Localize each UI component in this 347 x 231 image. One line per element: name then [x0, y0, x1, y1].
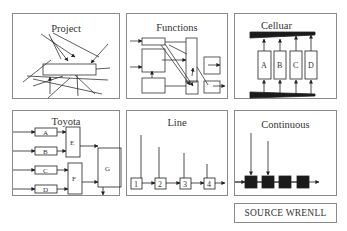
toyota-b-label: B [43, 148, 48, 156]
toyota-a-label: A [43, 129, 48, 137]
panel-project: Project [12, 13, 120, 99]
panel-functions: Functions [126, 13, 228, 99]
line-diagram: 1 2 3 4 [127, 111, 229, 197]
toyota-g-label: G [105, 165, 110, 173]
toyota-diagram: A B C D E F G [13, 111, 121, 197]
panel-line: Line 1 2 3 4 [126, 110, 228, 196]
toyota-e-label: E [70, 139, 74, 147]
continuous-diagram [235, 111, 338, 197]
toyota-c-label: C [43, 167, 48, 175]
panel-continuous: Continuous [234, 110, 337, 196]
panel-cellular: Celluar A B C D [234, 13, 337, 99]
cellular-diagram: A B C D [235, 14, 338, 100]
project-diagram [13, 14, 121, 100]
source-label: SOURCE WRENLL [234, 203, 337, 223]
panel-toyota: Toyota A B C D E F G [12, 110, 120, 196]
cell-a-label: A [261, 61, 267, 70]
station-2-label: 2 [158, 180, 162, 189]
station-4-label: 4 [207, 180, 211, 189]
station-1-label: 1 [134, 180, 138, 189]
toyota-f-label: F [72, 175, 76, 183]
functions-diagram [127, 14, 229, 100]
cell-d-label: D [308, 61, 314, 70]
toyota-d-label: D [43, 186, 48, 194]
station-3-label: 3 [183, 180, 187, 189]
cell-c-label: C [293, 61, 298, 70]
cell-b-label: B [277, 61, 282, 70]
